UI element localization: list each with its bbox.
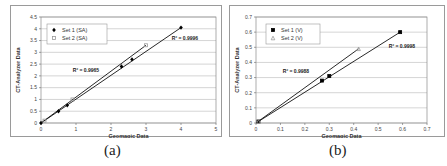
y-tick-label: 0.6 [245,29,252,35]
x-tick-label: 0.2 [301,126,308,132]
scatter-chart-b: 00.10.20.30.40.50.60.700.10.20.30.40.50.… [230,6,446,138]
x-tick-label: 4 [180,126,183,132]
scatter-chart-a: 00.511.522.533.544.5012345Geomagic DataC… [11,6,223,138]
diamond-marker [120,64,124,68]
y-tick-label: 3 [34,49,37,55]
x-tick-label: 0.5 [375,126,382,132]
diamond-marker [179,25,183,29]
x-tick-label: 0 [40,126,43,132]
x-tick-label: 0.3 [326,126,333,132]
legend-entry-label: Set 1 (SA) [62,27,88,33]
series-1: R² = 0.9998 [256,31,415,123]
y-axis-ticks: 00.10.20.30.40.50.60.7 [245,14,256,126]
x-axis-label: Geomagic Data [321,133,362,138]
y-tick-label: 0.1 [245,105,252,111]
series-2: R² = 0.9988 [256,47,360,123]
x-axis-ticks: 00.10.20.30.40.50.60.7 [255,123,431,132]
x-tick-label: 0.4 [350,126,357,132]
y-axis-label: CT-Analyzer Data [234,46,240,92]
x-tick-label: 0.6 [399,126,406,132]
caption-b: (b) [329,142,347,159]
r-squared-label: R² = 0.9965 [73,67,99,73]
legend-entry-label: Set 1 (V) [281,27,303,33]
x-tick-label: 0 [255,126,258,132]
caption-a: (a) [104,142,121,159]
r-squared-label: R² = 0.9998 [389,43,415,49]
chart-panel-b: 00.10.20.30.40.50.60.700.10.20.30.40.50.… [229,5,445,137]
square-marker [272,29,275,32]
x-axis-label: Geomagic Data [108,133,149,138]
x-axis-ticks: 012345 [40,123,218,132]
r-squared-label: R² = 0.9988 [283,68,309,74]
chart-panel-a: 00.511.522.533.544.5012345Geomagic DataC… [10,5,222,137]
y-tick-label: 4.5 [30,14,37,20]
trendline [256,49,359,123]
y-tick-label: 0.3 [245,74,252,80]
legend: Set 1 (SA)Set 2 (SA) [47,24,107,44]
legend: Set 1 (V)Set 2 (V) [266,24,320,44]
square-marker [328,75,331,78]
x-tick-label: 0.7 [424,126,431,132]
r-squared-label: R² = 0.9996 [172,35,198,41]
x-tick-label: 3 [145,126,148,132]
y-tick-label: 4 [34,26,37,32]
y-tick-label: 3.5 [30,37,37,43]
x-tick-label: 1 [75,126,78,132]
y-tick-label: 2 [34,73,37,79]
legend-entry-label: Set 2 (SA) [62,35,88,41]
y-tick-label: 0.5 [245,44,252,50]
square-marker [399,31,402,34]
legend-entry-label: Set 2 (V) [281,35,303,41]
y-tick-label: 2.5 [30,61,37,67]
y-tick-label: 0.5 [30,108,37,114]
y-tick-label: 1.5 [30,84,37,90]
x-tick-label: 2 [110,126,113,132]
y-axis-ticks: 00.511.522.533.544.5 [30,14,41,126]
y-tick-label: 0.4 [245,59,252,65]
y-axis-label: CT-Analyzer Data [15,46,21,92]
y-tick-label: 0.7 [245,14,252,20]
y-tick-label: 1 [34,96,37,102]
y-tick-label: 0.2 [245,90,252,96]
square-marker [320,79,323,82]
x-tick-label: 0.1 [277,126,284,132]
y-tick-label: 0 [249,120,252,126]
diamond-marker [130,57,134,61]
x-tick-label: 5 [215,126,218,132]
y-tick-label: 0 [34,120,37,126]
